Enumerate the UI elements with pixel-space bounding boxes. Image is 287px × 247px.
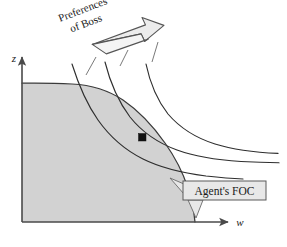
- callout-label: Agent's FOC: [195, 185, 255, 198]
- x-axis-label: w: [236, 216, 244, 228]
- tangency-point-marker: [139, 134, 147, 142]
- economics-diagram: z w Preferences of Boss Agen: [0, 0, 287, 247]
- y-axis-label: z: [11, 52, 17, 64]
- diagram-canvas: z w Preferences of Boss Agen: [0, 0, 287, 247]
